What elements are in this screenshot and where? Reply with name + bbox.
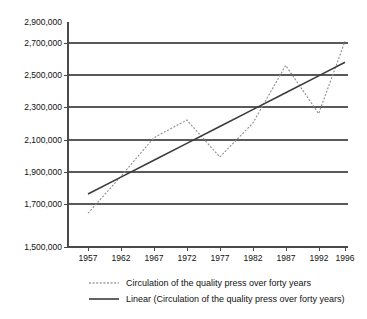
- y-axis-label-1700000: 1,700,000: [24, 199, 62, 209]
- legend-label-circulation: Circulation of the quality press over fo…: [126, 278, 312, 288]
- x-axis-label-1957: 1957: [79, 253, 98, 263]
- x-axis-label-1992: 1992: [310, 253, 329, 263]
- legend-label-linear-trend: Linear (Circulation of the quality press…: [126, 294, 345, 304]
- y-axis-label-2900000: 2,900,000: [24, 17, 62, 27]
- y-axis-label-2700000: 2,700,000: [24, 38, 62, 48]
- chart-container: 2,900,000 2,700,000 2,500,000 2,300,000 …: [0, 0, 367, 319]
- y-axis-label-1500000: 1,500,000: [24, 242, 62, 252]
- y-axis-label-2300000: 2,300,000: [24, 102, 62, 112]
- x-axis-label-1982: 1982: [244, 253, 263, 263]
- y-axis-label-2500000: 2,500,000: [24, 70, 62, 80]
- x-axis-labels: 1957 1962 1967 1972 1977 1982 1987 1992 …: [79, 253, 355, 263]
- x-axis-label-1972: 1972: [178, 253, 197, 263]
- y-axis-label-2100000: 2,100,000: [24, 135, 62, 145]
- x-axis-label-1996: 1996: [336, 253, 355, 263]
- circulation-line-chart: 2,900,000 2,700,000 2,500,000 2,300,000 …: [0, 0, 367, 319]
- x-axis-label-1967: 1967: [145, 253, 164, 263]
- y-axis-label-1900000: 1,900,000: [24, 167, 62, 177]
- x-axis-label-1962: 1962: [112, 253, 131, 263]
- x-axis-label-1977: 1977: [211, 253, 230, 263]
- x-axis-label-1987: 1987: [277, 253, 296, 263]
